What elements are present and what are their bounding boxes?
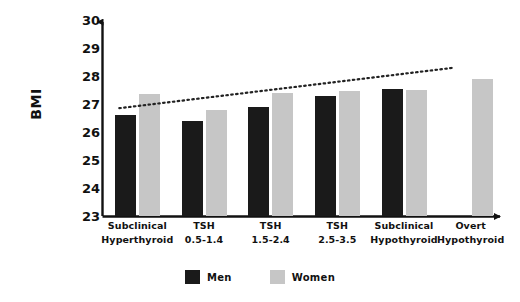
legend-label: Women [292,272,335,283]
legend-item-men[interactable]: Men [185,270,232,284]
x-axis-label-5: OvertHypothyroid [429,219,512,247]
trendline-overlay [0,0,520,302]
bmi-thyroid-bar-chart: BMI 3029282726252423 SubclinicalHyperthy… [0,0,520,302]
x-axis-category-labels: SubclinicalHyperthyroidTSH0.5-1.4TSH1.5-… [96,219,512,253]
legend-label: Men [207,272,232,283]
trendline [119,68,454,109]
legend-item-women[interactable]: Women [270,270,335,284]
chart-legend: MenWomen [0,270,520,284]
legend-swatch-women [270,270,285,284]
legend-swatch-men [185,270,200,284]
x-axis-label-line: Overt [429,219,512,233]
x-axis-label-line: Hypothyroid [429,233,512,247]
